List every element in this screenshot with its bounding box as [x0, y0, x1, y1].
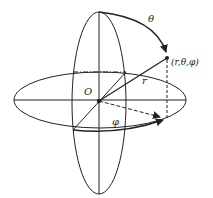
theta-label: θ [148, 14, 154, 24]
spherical-coordinates-diagram: θ (r,θ,φ) r O φ [0, 0, 213, 198]
radius-line [99, 58, 167, 101]
point-label: (r,θ,φ) [171, 58, 199, 67]
r-label: r [142, 76, 147, 86]
origin-label: O [84, 87, 92, 97]
projection-dashed-radial [99, 101, 160, 117]
point-dot [165, 56, 169, 60]
origin-dot [97, 99, 101, 103]
diagram-svg [0, 0, 213, 198]
phi-label: φ [112, 117, 119, 127]
